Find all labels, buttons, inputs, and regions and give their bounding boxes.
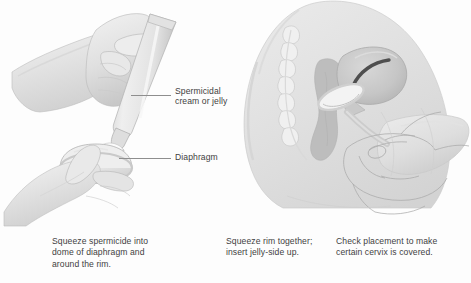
instructional-figure: Spermicidal cream or jelly Diaphragm Squ… — [0, 0, 471, 283]
thigh-shape — [377, 115, 469, 175]
applying-spermicide-illustration — [0, 0, 240, 230]
diaphragm-placement-illustration — [235, 0, 471, 230]
caption-squeeze-rim: Squeeze rim together; insert jelly-side … — [226, 236, 331, 259]
leader-line-diaphragm — [119, 158, 171, 159]
caption-check-placement: Check placement to make certain cervix i… — [336, 236, 471, 259]
leader-line-spermicidal-cream — [131, 95, 171, 96]
caption-squeeze-spermicide: Squeeze spermicide into dome of diaphrag… — [52, 236, 212, 270]
label-diaphragm: Diaphragm — [175, 152, 218, 162]
label-spermicidal-cream: Spermicidal cream or jelly — [175, 86, 227, 107]
